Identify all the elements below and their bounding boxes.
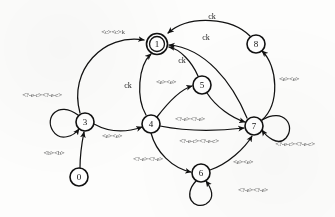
edge-label-0-to-3: <b><b> [44,149,65,157]
edge-4-to-5 [157,86,192,117]
state-node-3-label: 3 [83,117,88,127]
edge-7-to-8 [262,51,275,120]
edge-label-3-to-4: <e><e> [102,132,123,140]
edge-label-4-to-7: <?-e-c><?-e-c> [179,137,219,145]
state-node-0[interactable]: 0 [70,168,88,186]
edge-label-5-to-1: ck [178,56,186,65]
edge-label-3-self-loop: <?-e-c><?-e-c> [22,91,62,99]
state-node-3[interactable]: 3 [76,113,94,131]
state-node-1[interactable]: 1 [147,34,168,55]
state-node-8-label: 8 [254,39,259,49]
edge-label-6-self-loop: <?-e><?-e> [238,186,268,194]
state-node-5[interactable]: 5 [193,76,211,94]
edge-4-to-7 [160,126,244,130]
state-node-8[interactable]: 8 [247,35,265,53]
state-node-7-label: 7 [252,121,257,131]
state-node-4-label: 4 [149,119,154,129]
edge-label-7-self-loop: <?-e-c><?-e-c> [275,140,315,148]
state-node-5-label: 5 [200,80,205,90]
edge-3-self-loop [50,109,79,137]
edge-label-6-to-7: <e><e> [233,158,254,166]
state-node-4[interactable]: 4 [142,115,160,133]
state-machine-graph: 0 1 3 4 5 6 7 [0,0,335,217]
state-node-6-label: 6 [199,168,204,178]
state-node-0-label: 0 [77,172,82,182]
edge-3-to-4 [94,124,142,131]
edge-label-3-to-1: <c><c>k [101,28,125,36]
edge-label-7-to-8: <e><e> [279,75,300,83]
state-node-7[interactable]: 7 [245,117,263,135]
edge-label-8-to-1: ck [208,12,216,21]
diagram-canvas: 0 1 3 4 5 6 7 [0,0,335,217]
edge-label-4-to-1: ck [124,81,132,90]
edge-label-5-to-7: <?-e><?-e> [175,115,205,123]
state-node-1-label: 1 [155,39,160,49]
edge-7-self-loop [262,116,290,142]
edge-label-4-to-5: <e><e> [156,78,177,86]
edge-label-7-to-1: ck [202,33,210,42]
state-node-6[interactable]: 6 [192,164,210,182]
edge-0-to-3 [80,132,84,168]
edge-5-to-7 [207,93,245,122]
edge-4-to-1 [140,54,151,115]
edge-label-4-to-6: <?-e><?-e> [133,155,163,163]
edge-3-to-1 [78,39,144,113]
edge-6-self-loop [190,181,212,205]
